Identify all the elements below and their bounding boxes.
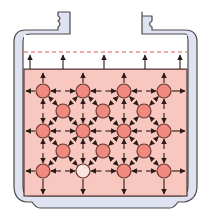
molecule	[117, 84, 131, 98]
molecule	[76, 124, 90, 138]
molecule	[96, 104, 110, 118]
molecule	[36, 164, 50, 178]
molecule	[157, 84, 171, 98]
molecule	[56, 104, 70, 118]
molecule	[137, 104, 151, 118]
molecule	[36, 124, 50, 138]
molecule	[36, 84, 50, 98]
molecule	[157, 164, 171, 178]
evaporation-diagram	[0, 0, 212, 219]
molecule	[96, 144, 110, 158]
molecule-light	[76, 164, 90, 178]
molecule	[157, 124, 171, 138]
molecule	[137, 144, 151, 158]
molecule	[117, 164, 131, 178]
molecule	[56, 144, 70, 158]
molecule	[117, 124, 131, 138]
molecule	[76, 84, 90, 98]
